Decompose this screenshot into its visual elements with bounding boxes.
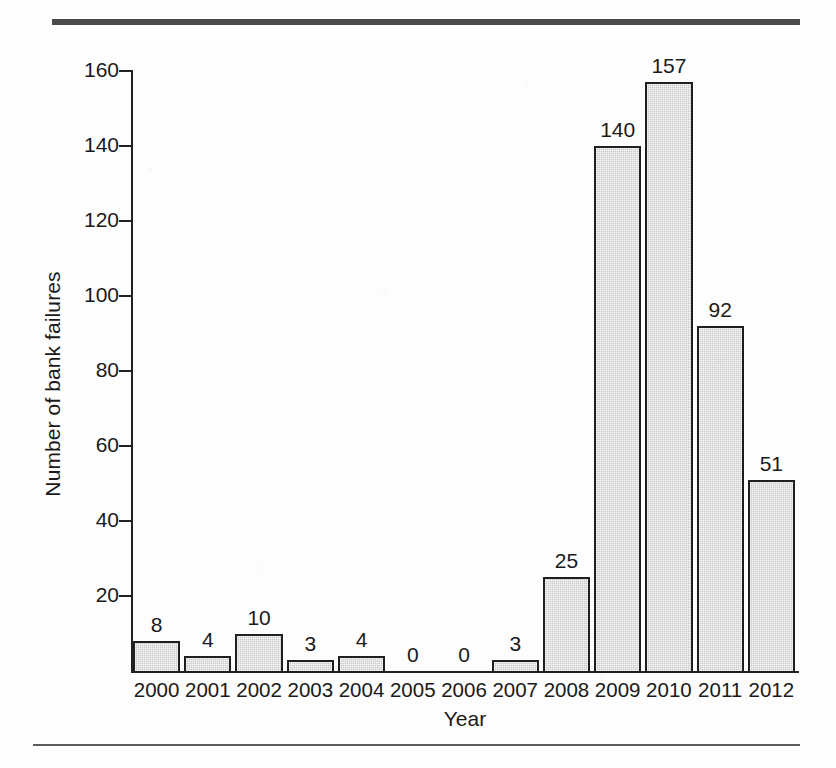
bar[interactable]: [287, 660, 334, 673]
y-axis-tick-label: 60: [61, 433, 119, 457]
y-axis-tick-mark: [119, 445, 133, 447]
y-axis-tick-label: 140: [61, 133, 119, 157]
y-axis-tick-label: 160: [61, 58, 119, 82]
y-axis-tick-label: 40: [61, 508, 119, 532]
bar-value-label: 3: [486, 632, 545, 656]
y-axis-tick-mark: [119, 370, 133, 372]
bar-value-label: 10: [229, 606, 288, 630]
y-axis-tick-mark: [119, 145, 133, 147]
y-axis-tick-mark: [119, 595, 133, 597]
bar-value-label: 140: [588, 118, 647, 142]
bar[interactable]: [338, 656, 385, 673]
bar[interactable]: [748, 480, 795, 673]
y-axis-tick-label: 80: [61, 358, 119, 382]
bar[interactable]: [235, 634, 282, 674]
y-axis-tick-label: 100: [61, 283, 119, 307]
x-axis-tick-label: 2012: [742, 678, 801, 702]
bar-value-label: 51: [742, 452, 801, 476]
bar[interactable]: [543, 577, 590, 673]
bar-value-label: 25: [537, 549, 596, 573]
bar[interactable]: [594, 146, 641, 673]
bar-value-label: 4: [178, 628, 237, 652]
y-axis-line: [131, 71, 133, 673]
bar[interactable]: [184, 656, 231, 673]
bar[interactable]: [697, 326, 744, 673]
bar[interactable]: [133, 641, 180, 673]
x-axis-title: Year: [131, 707, 799, 731]
y-axis-tick-mark: [119, 520, 133, 522]
bar-value-label: 157: [639, 54, 698, 78]
y-axis-tick-label: 20: [61, 583, 119, 607]
bar-value-label: 92: [691, 298, 750, 322]
y-axis-tick-mark: [119, 220, 133, 222]
y-axis-tick-mark: [119, 295, 133, 297]
bank-failures-bar-chart: Number of bank failures Year 20406080100…: [0, 0, 836, 768]
bar[interactable]: [492, 660, 539, 673]
y-axis-tick-mark: [119, 70, 133, 72]
y-axis-tick-label: 120: [61, 208, 119, 232]
bar[interactable]: [645, 82, 692, 673]
